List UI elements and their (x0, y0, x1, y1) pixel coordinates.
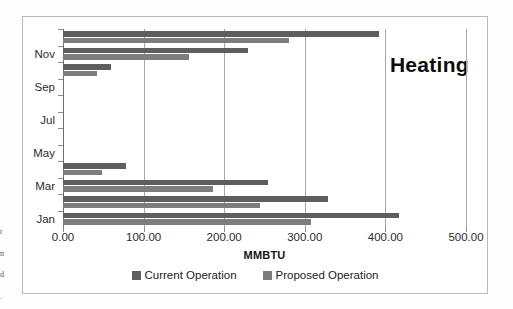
x-axis-label-400: 400.00 (368, 231, 403, 243)
margin-scrap-0: r (0, 228, 8, 237)
gridline-500 (466, 29, 467, 227)
bar-oct-proposed-operation[interactable] (63, 71, 97, 77)
bar-nov-current-operation[interactable] (63, 48, 248, 54)
bar-jan-proposed-operation[interactable] (63, 219, 311, 225)
x-axis-title: MMBTU (63, 249, 466, 261)
legend-swatch-icon (132, 271, 141, 280)
bar-apr-current-operation[interactable] (63, 163, 126, 169)
bar-mar-current-operation[interactable] (63, 180, 268, 186)
x-axis-label-500: 500.00 (448, 231, 483, 243)
y-axis-label-mar: Mar (35, 180, 55, 192)
gridline-400 (385, 29, 386, 227)
x-axis-label-300: 300.00 (287, 231, 322, 243)
x-axis-label-200: 200.00 (207, 231, 242, 243)
legend-item-proposed-operation[interactable]: Proposed Operation (263, 269, 379, 281)
legend-item-current-operation[interactable]: Current Operation (132, 269, 237, 281)
legend-label: Current Operation (145, 269, 237, 281)
chart-frame: Heating JanMarMayJulSepNov 0.00100.00200… (22, 16, 488, 294)
y-axis-label-jul: Jul (40, 114, 55, 126)
plot-area (63, 29, 466, 227)
bar-apr-proposed-operation[interactable] (63, 170, 102, 176)
legend-swatch-icon (263, 271, 272, 280)
y-axis-labels: JanMarMayJulSepNov (17, 29, 61, 227)
y-axis-label-may: May (33, 147, 55, 159)
y-axis-label-nov: Nov (35, 48, 55, 60)
bar-feb-current-operation[interactable] (63, 196, 328, 202)
x-axis-label-100: 100.00 (126, 231, 161, 243)
y-axis-label-jan: Jan (36, 213, 55, 225)
legend-label: Proposed Operation (276, 269, 379, 281)
page-background: rnd. Heating JanMarMayJulSepNov 0.00100.… (0, 0, 513, 309)
margin-scrap-2: d (0, 271, 8, 280)
bar-dec-proposed-operation[interactable] (63, 38, 289, 44)
margin-scrap-3: . (0, 293, 8, 302)
clipped-margin-text: rnd. (0, 228, 14, 302)
y-axis-label-sep: Sep (35, 81, 55, 93)
x-axis-labels: 0.00100.00200.00300.00400.00500.00 (63, 231, 466, 247)
chart-legend: Current OperationProposed Operation (23, 269, 487, 281)
bar-oct-current-operation[interactable] (63, 64, 111, 70)
bar-feb-proposed-operation[interactable] (63, 203, 260, 209)
bar-dec-current-operation[interactable] (63, 31, 379, 37)
bar-nov-proposed-operation[interactable] (63, 54, 189, 60)
x-axis-label-0: 0.00 (52, 231, 74, 243)
bar-jan-current-operation[interactable] (63, 213, 399, 219)
bar-mar-proposed-operation[interactable] (63, 186, 213, 192)
margin-scrap-1: n (0, 250, 8, 259)
